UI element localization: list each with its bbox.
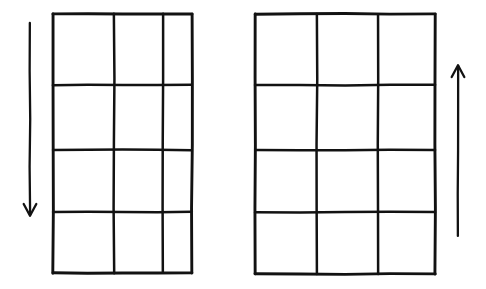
right-grid-cell-r1c3[interactable] — [378, 14, 435, 85]
left-grid-cell-r3c3[interactable] — [163, 150, 192, 212]
right-grid-cell-r3c1[interactable] — [255, 150, 317, 212]
left-grid-cell-r1c1[interactable] — [53, 14, 114, 85]
left-grid-cell-r2c2[interactable] — [114, 85, 163, 150]
left-grid-cell-r2c1[interactable] — [53, 85, 114, 150]
right-grid — [255, 14, 435, 275]
up-arrow[interactable] — [452, 65, 465, 236]
down-arrow-shaft — [30, 23, 31, 215]
right-grid-cell-r1c2[interactable] — [317, 14, 378, 85]
left-grid-cell-r1c3[interactable] — [163, 14, 192, 85]
sketch-drawing — [0, 0, 486, 289]
left-grid-cell-r4c3[interactable] — [163, 212, 192, 273]
right-grid-hedge-0 — [255, 14, 435, 15]
right-grid-cell-r4c1[interactable] — [255, 212, 317, 274]
right-grid-cell-r2c1[interactable] — [255, 85, 317, 150]
right-grid-cell-r2c3[interactable] — [378, 85, 435, 150]
right-grid-hedge-4 — [255, 274, 435, 275]
left-grid-vline-1 — [114, 14, 115, 273]
figure-canvas: Two 3x4 grids with opposing vertical dir… — [0, 0, 486, 289]
right-grid-hline-2 — [255, 150, 435, 151]
left-grid-cell-r1c2[interactable] — [114, 14, 163, 85]
right-grid-cell-r3c2[interactable] — [317, 150, 378, 212]
right-grid-cell-r3c3[interactable] — [378, 150, 435, 212]
left-grid-vedge-0 — [53, 14, 54, 273]
down-arrow[interactable] — [24, 23, 37, 216]
left-grid-cell-r4c1[interactable] — [53, 212, 114, 273]
right-grid-hline-3 — [255, 212, 435, 213]
left-grid-cell-r4c2[interactable] — [114, 212, 163, 273]
left-grid-cell-r3c1[interactable] — [53, 150, 114, 212]
right-grid-cell-r4c3[interactable] — [378, 212, 435, 274]
left-grid-cell-r3c2[interactable] — [114, 150, 163, 212]
left-grid-cell-r2c3[interactable] — [163, 85, 192, 150]
right-grid-cell-r2c2[interactable] — [317, 85, 378, 150]
left-grid-hline-2 — [53, 150, 192, 151]
left-grid-hedge-4 — [53, 273, 192, 274]
left-grid-vedge-3 — [192, 14, 193, 273]
right-grid-hline-1 — [255, 85, 435, 86]
left-grid — [53, 14, 193, 273]
right-grid-vedge-3 — [435, 14, 436, 274]
right-grid-vline-1 — [317, 14, 318, 274]
right-grid-cell-r4c2[interactable] — [317, 212, 378, 274]
right-grid-cell-r1c1[interactable] — [255, 14, 317, 85]
left-grid-vline-2 — [163, 14, 164, 273]
